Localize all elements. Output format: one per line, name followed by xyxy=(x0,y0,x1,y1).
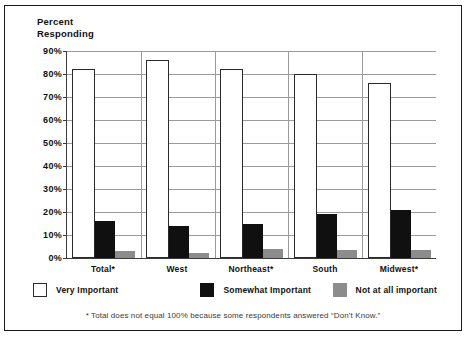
chart-figure-frame: Percent Responding 0%10%20%30%40%50%60%7… xyxy=(4,5,462,331)
y-tick-label: 50% xyxy=(43,138,62,148)
bar-1 xyxy=(169,226,189,258)
bar-2 xyxy=(115,251,135,258)
bar-2 xyxy=(263,249,283,258)
y-tick-label: 40% xyxy=(43,161,62,171)
bar-group xyxy=(362,51,436,258)
bar-1 xyxy=(243,224,263,259)
plot-area xyxy=(66,51,436,259)
x-axis-label: Midwest* xyxy=(362,264,436,274)
y-tick-label: 60% xyxy=(43,115,62,125)
bar-group xyxy=(141,51,215,258)
bar-1 xyxy=(391,210,411,258)
y-tick-label: 70% xyxy=(43,92,62,102)
x-axis-labels: Total*WestNortheast*SouthMidwest* xyxy=(66,264,436,274)
legend-item-label: Not at all important xyxy=(356,285,437,295)
footnote: * Total does not equal 100% because some… xyxy=(5,311,461,320)
bar-0 xyxy=(220,69,243,258)
legend-item: Very Important xyxy=(33,283,200,297)
y-axis-title: Percent Responding xyxy=(37,16,94,39)
bar-2 xyxy=(189,253,209,258)
bar-0 xyxy=(294,74,317,258)
white-square-icon xyxy=(33,283,47,297)
bar-group xyxy=(288,51,362,258)
bar-1 xyxy=(317,214,337,258)
y-tick-label: 90% xyxy=(43,46,62,56)
page-bleed-text: · · · · · · xyxy=(0,0,468,4)
y-axis-title-line1: Percent xyxy=(37,16,94,28)
y-axis: 0%10%20%30%40%50%60%70%80%90% xyxy=(32,51,66,264)
bar-groups xyxy=(67,51,436,258)
legend-item: Not at all important xyxy=(333,283,437,297)
x-axis-label: West xyxy=(140,264,214,274)
plot-wrapper: 0%10%20%30%40%50%60%70%80%90% xyxy=(32,51,436,264)
y-tick-label: 10% xyxy=(43,230,62,240)
y-tick-label: 20% xyxy=(43,207,62,217)
bar-2 xyxy=(411,250,431,258)
bar-1 xyxy=(95,221,115,258)
legend-item-label: Very Important xyxy=(56,285,118,295)
bar-0 xyxy=(368,83,391,258)
bar-0 xyxy=(72,69,95,258)
page-bleed-fragment: · · · · · · xyxy=(0,0,468,4)
y-tickmark xyxy=(63,258,67,259)
bar-0 xyxy=(146,60,169,258)
legend-item-label: Somewhat Important xyxy=(223,285,311,295)
chart-legend: Very ImportantSomewhat ImportantNot at a… xyxy=(33,283,437,297)
legend-item: Somewhat Important xyxy=(200,283,332,297)
x-axis-label: Northeast* xyxy=(214,264,288,274)
bar-group xyxy=(215,51,289,258)
bar-group xyxy=(67,51,141,258)
x-axis-label: Total* xyxy=(66,264,140,274)
black-square-icon xyxy=(200,283,214,297)
y-axis-title-line2: Responding xyxy=(37,28,94,40)
x-axis-label: South xyxy=(288,264,362,274)
y-tick-label: 30% xyxy=(43,184,62,194)
y-tick-label: 0% xyxy=(48,253,62,263)
gray-square-icon xyxy=(333,283,347,297)
bar-2 xyxy=(337,250,357,258)
y-tick-label: 80% xyxy=(43,69,62,79)
